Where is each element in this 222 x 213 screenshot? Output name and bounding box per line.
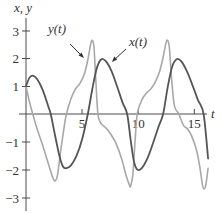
y-axis-label: x, y bbox=[13, 0, 32, 15]
y-tick-label: 1 bbox=[13, 79, 20, 94]
y-tick-label: −3 bbox=[5, 191, 19, 206]
y-series-arrow-icon bbox=[70, 44, 84, 58]
y-tick-label: −2 bbox=[5, 163, 19, 178]
y-tick-label: −1 bbox=[5, 135, 19, 150]
x-series-arrow-icon bbox=[112, 49, 126, 62]
y-series-label: y(t) bbox=[46, 21, 66, 36]
y-tick-label: 2 bbox=[13, 51, 20, 66]
x-tick-label: 15 bbox=[188, 116, 201, 131]
x-axis-label: t bbox=[211, 106, 215, 121]
line-chart: 3 2 1 −1 −2 −3 5 10 15 x, y t y(t) x(t) bbox=[0, 0, 222, 213]
y-tick-label: 3 bbox=[13, 24, 20, 39]
series-y-line bbox=[26, 40, 208, 189]
y-tick-labels: 3 2 1 −1 −2 −3 bbox=[5, 24, 19, 206]
x-series-label: x(t) bbox=[128, 34, 147, 49]
x-tick-label: 10 bbox=[132, 116, 145, 131]
